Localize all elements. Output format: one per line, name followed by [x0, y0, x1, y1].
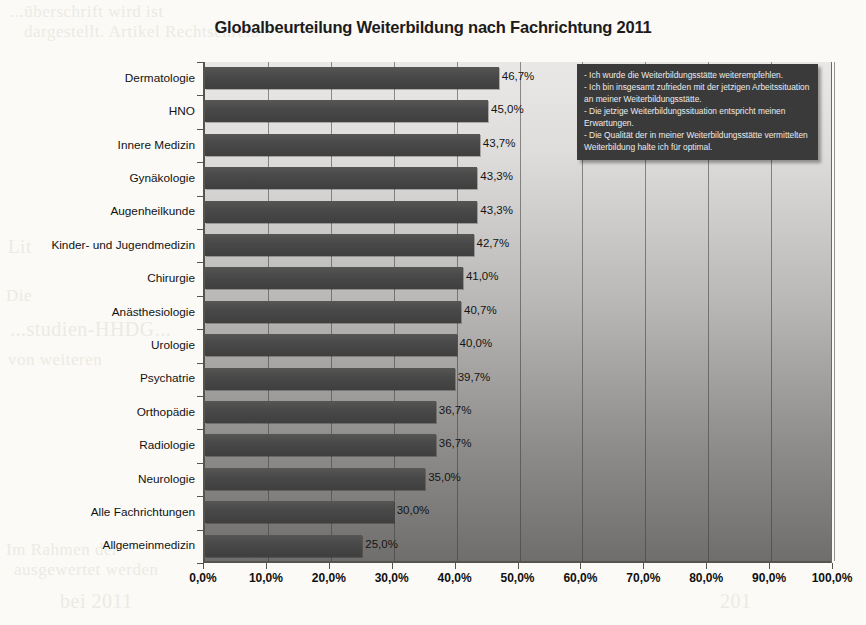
bar-value-label: 36,7%	[439, 404, 472, 416]
x-axis-tick	[329, 563, 330, 569]
bar[interactable]	[205, 201, 477, 223]
bar-value-label: 36,7%	[439, 437, 472, 449]
bar-chart: Globalbeurteilung Weiterbildung nach Fac…	[0, 0, 866, 625]
bar-row: 40,7%	[205, 296, 832, 329]
x-axis-tick	[203, 563, 204, 569]
bar-value-label: 25,0%	[365, 538, 398, 550]
bar-row: 41,0%	[205, 262, 832, 295]
gridline	[834, 62, 835, 561]
bar-value-label: 43,7%	[483, 137, 516, 149]
category-axis-tick	[197, 62, 203, 63]
category-label: Radiologie	[0, 438, 195, 452]
category-axis-tick	[197, 463, 203, 464]
bar-value-label: 43,3%	[480, 170, 513, 182]
bar-row: 25,0%	[205, 530, 832, 563]
annotation-line: - Die jetzige Weiterbildungssituation en…	[584, 106, 811, 130]
category-axis-tick	[197, 296, 203, 297]
category-axis-tick	[197, 262, 203, 263]
plot-right-border	[831, 62, 832, 563]
category-axis-tick	[197, 530, 203, 531]
category-label: Augenheilkunde	[0, 204, 195, 218]
x-axis-tick-label: 80,0%	[689, 571, 723, 585]
x-axis-tick-label: 50,0%	[500, 571, 534, 585]
legend-annotation-box: - Ich wurde die Weiterbildungsstätte wei…	[577, 64, 818, 160]
category-axis-tick	[197, 496, 203, 497]
bar-row: 39,7%	[205, 363, 832, 396]
bar-row: 30,0%	[205, 496, 832, 529]
category-label: Psychatrie	[0, 371, 195, 385]
bar-value-label: 45,0%	[491, 103, 524, 115]
bar-value-label: 43,3%	[480, 204, 513, 216]
x-axis-labels: 0,0%10,0%20,0%30,0%40,0%50,0%60,0%70,0%8…	[0, 571, 866, 591]
bar-value-label: 46,7%	[502, 70, 535, 82]
category-axis-tick	[197, 229, 203, 230]
bar[interactable]	[205, 468, 425, 490]
bar-row: 43,3%	[205, 162, 832, 195]
category-axis-tick	[197, 329, 203, 330]
bar-row: 36,7%	[205, 429, 832, 462]
category-axis-tick	[197, 429, 203, 430]
category-label: Gynäkologie	[0, 171, 195, 185]
x-axis-tick	[643, 563, 644, 569]
bar[interactable]	[205, 501, 394, 523]
annotation-line: - Ich bin insgesamt zufrieden mit der je…	[584, 82, 811, 106]
bar[interactable]	[205, 234, 474, 256]
bar[interactable]	[205, 535, 362, 557]
category-axis-tick	[197, 95, 203, 96]
bar-value-label: 35,0%	[428, 471, 461, 483]
bar[interactable]	[205, 67, 499, 89]
chart-title: Globalbeurteilung Weiterbildung nach Fac…	[0, 18, 866, 37]
x-axis-tick	[580, 563, 581, 569]
category-label: Kinder- und Jugendmedizin	[0, 238, 195, 252]
bar[interactable]	[205, 434, 436, 456]
category-axis-tick	[197, 363, 203, 364]
category-axis-tick	[197, 196, 203, 197]
bar[interactable]	[205, 167, 477, 189]
annotation-line: - Die Qualität der in meiner Weiterbildu…	[584, 130, 811, 154]
bar-value-label: 40,7%	[464, 304, 497, 316]
bar-row: 42,7%	[205, 229, 832, 262]
x-axis-tick	[769, 563, 770, 569]
bar-value-label: 40,0%	[460, 337, 493, 349]
bar-row: 43,3%	[205, 196, 832, 229]
category-axis-labels: DermatologieHNOInnere MedizinGynäkologie…	[0, 62, 195, 563]
annotation-line: - Ich wurde die Weiterbildungsstätte wei…	[584, 70, 811, 82]
bar[interactable]	[205, 267, 463, 289]
x-axis-tick-label: 30,0%	[375, 571, 409, 585]
category-label: Innere Medizin	[0, 138, 195, 152]
x-axis-tick	[392, 563, 393, 569]
x-axis-tick	[832, 563, 833, 569]
x-axis-tick-label: 70,0%	[626, 571, 660, 585]
x-axis-tick	[518, 563, 519, 569]
x-axis-tick	[706, 563, 707, 569]
x-axis-tick-label: 40,0%	[438, 571, 472, 585]
category-axis-tick	[197, 162, 203, 163]
bar[interactable]	[205, 134, 480, 156]
bar[interactable]	[205, 368, 455, 390]
bar[interactable]	[205, 334, 457, 356]
category-label: HNO	[0, 104, 195, 118]
category-label: Alle Fachrichtungen	[0, 505, 195, 519]
x-axis-tick-label: 0,0%	[189, 571, 216, 585]
category-label: Allgemeinmedizin	[0, 538, 195, 552]
x-axis-tick-label: 20,0%	[312, 571, 346, 585]
x-axis-tick	[266, 563, 267, 569]
bar-row: 36,7%	[205, 396, 832, 429]
x-axis-tick	[455, 563, 456, 569]
category-label: Urologie	[0, 338, 195, 352]
category-axis-tick	[197, 129, 203, 130]
bar-row: 35,0%	[205, 463, 832, 496]
bar-value-label: 39,7%	[458, 371, 491, 383]
bar[interactable]	[205, 401, 436, 423]
x-axis-tick-label: 100,0%	[812, 571, 853, 585]
category-axis-tick	[197, 563, 203, 564]
category-label: Chirurgie	[0, 271, 195, 285]
category-label: Anästhesiologie	[0, 305, 195, 319]
category-label: Dermatologie	[0, 71, 195, 85]
bar-value-label: 42,7%	[477, 237, 510, 249]
bar[interactable]	[205, 100, 488, 122]
x-axis-ticks	[203, 563, 832, 570]
bar[interactable]	[205, 301, 461, 323]
x-axis-tick-label: 90,0%	[752, 571, 786, 585]
category-label: Orthopädie	[0, 405, 195, 419]
